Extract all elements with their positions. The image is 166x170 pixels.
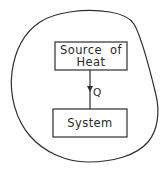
- heat-transfer-diagram: Source of Heat Q System: [0, 0, 166, 170]
- system-box: System: [53, 109, 127, 137]
- heat-q-label: Q: [93, 86, 101, 98]
- heat-flow-arrow: Q: [87, 70, 101, 109]
- source-of-heat-box: Source of Heat: [55, 42, 127, 70]
- source-box-label-line2: Heat: [77, 55, 106, 69]
- system-box-label: System: [67, 116, 112, 130]
- boundary-outline: [11, 10, 158, 162]
